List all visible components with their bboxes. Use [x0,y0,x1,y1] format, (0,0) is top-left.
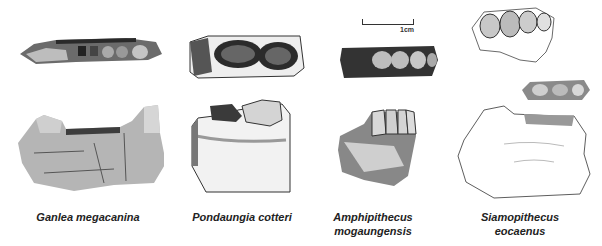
specimen-label-pondaungia: Pondaungia cotteri [172,210,312,224]
label-line-2: eocaenus [460,224,580,238]
ganlea-lateral-view [14,103,164,193]
label-line-1: Amphipithecus [318,210,428,224]
siamopithecus-tooth-row [520,78,592,102]
ganlea-occlusal-view [16,32,166,70]
scale-bar-label: 1cm [400,26,414,33]
specimen-label-ganlea: Ganlea megacanina [18,210,158,224]
pondaungia-lateral-view [186,96,296,196]
pondaungia-occlusal-view [186,32,306,80]
specimen-label-siamopithecus: Siamopithecus eocaenus [460,210,580,238]
label-line-1: Pondaungia cotteri [192,211,292,223]
siamopithecus-occlusal-view [466,4,566,66]
siamopithecus-lateral-view [454,104,594,200]
amphipithecus-lateral-view [334,106,420,188]
label-line-1: Siamopithecus [460,210,580,224]
label-line-2: mogaungensis [318,224,428,238]
label-line-1: Ganlea megacanina [36,211,139,223]
amphipithecus-occlusal-view [338,42,442,80]
specimen-label-amphipithecus: Amphipithecus mogaungensis [318,210,428,238]
scale-bar [362,19,414,25]
